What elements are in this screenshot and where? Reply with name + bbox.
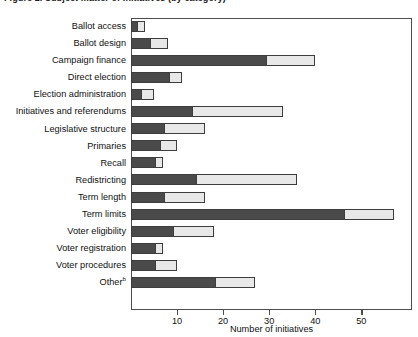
x-axis-tick <box>223 310 224 315</box>
bar-segment-light <box>137 22 144 31</box>
y-axis-category-labels: Ballot accessBallot designCampaign finan… <box>0 18 131 292</box>
bar-segment-light <box>169 73 181 82</box>
bar-segment-light <box>164 193 203 202</box>
y-axis-label: Ballot access <box>0 18 131 35</box>
bar-row <box>131 86 412 103</box>
bar-segment-dark <box>132 39 150 48</box>
stacked-bar <box>131 209 394 220</box>
bar-segment-light <box>266 56 315 65</box>
stacked-bar <box>131 277 255 288</box>
figure-title: Figure 2. Subject matter of initiatives … <box>4 0 226 3</box>
bar-segment-light <box>155 261 176 270</box>
stacked-bar <box>131 192 205 203</box>
stacked-bar <box>131 89 154 100</box>
stacked-bar <box>131 260 177 271</box>
y-axis-label: Voter procedures <box>0 257 131 274</box>
y-axis-label: Redistricting <box>0 172 131 189</box>
y-axis-label: Primaries <box>0 138 131 155</box>
bar-segment-light <box>164 124 203 133</box>
bar-segment-dark <box>132 193 164 202</box>
bar-segment-dark <box>132 56 266 65</box>
bar-row <box>131 155 412 172</box>
stacked-bar <box>131 106 283 117</box>
y-axis-label: Voter eligibility <box>0 223 131 240</box>
bar-segment-dark <box>132 261 155 270</box>
bar-row <box>131 52 412 69</box>
y-axis-label: Election administration <box>0 86 131 103</box>
bar-segment-dark <box>132 244 155 253</box>
y-axis-label: Voter registration <box>0 240 131 257</box>
stacked-bar <box>131 226 214 237</box>
bar-segment-dark <box>132 227 173 236</box>
bar-segment-dark <box>132 124 164 133</box>
bar-row <box>131 223 412 240</box>
bar-row <box>131 257 412 274</box>
y-axis-label: Recall <box>0 155 131 172</box>
bar-segment-light <box>160 141 176 150</box>
bar-segment-dark <box>132 107 192 116</box>
y-axis-label: Ballot design <box>0 35 131 52</box>
bar-segment-light <box>344 210 393 219</box>
bar-row <box>131 35 412 52</box>
bar-row <box>131 206 412 223</box>
y-axis-label: Campaign finance <box>0 52 131 69</box>
bar-segment-light <box>155 244 162 253</box>
stacked-bar <box>131 55 315 66</box>
x-axis-tick <box>361 310 362 315</box>
bar-row <box>131 172 412 189</box>
bar-segment-light <box>155 158 162 167</box>
y-axis-label: Term length <box>0 189 131 206</box>
figure-title-strip: Figure 2. Subject matter of initiatives … <box>0 0 418 8</box>
y-axis-label: Initiatives and referendums <box>0 103 131 120</box>
bar-segment-light <box>192 107 282 116</box>
footnote-marker: b <box>123 275 126 282</box>
bar-row <box>131 274 412 291</box>
bar-row <box>131 189 412 206</box>
bar-segment-dark <box>132 73 169 82</box>
bar-segment-dark <box>132 158 155 167</box>
bar-segment-dark <box>132 278 215 287</box>
x-axis-tick <box>177 310 178 315</box>
x-axis-title: Number of initiatives <box>131 324 412 334</box>
bar-segment-light <box>150 39 166 48</box>
bar-row <box>131 69 412 86</box>
bar-segment-dark <box>132 90 141 99</box>
x-axis-tick <box>269 310 270 315</box>
stacked-bar <box>131 243 163 254</box>
y-axis-label: Direct election <box>0 69 131 86</box>
bar-row <box>131 121 412 138</box>
bar-segment-dark <box>132 175 196 184</box>
bar-row <box>131 18 412 35</box>
stacked-bar <box>131 21 145 32</box>
bar-segment-light <box>141 90 153 99</box>
stacked-bar <box>131 174 297 185</box>
bar-row <box>131 103 412 120</box>
stacked-bar <box>131 157 163 168</box>
figure-container: Figure 2. Subject matter of initiatives … <box>0 0 418 337</box>
bars-layer <box>131 18 412 309</box>
bar-segment-light <box>173 227 212 236</box>
bar-segment-dark <box>132 141 160 150</box>
stacked-bar <box>131 72 182 83</box>
y-axis-label: Otherb <box>0 274 131 291</box>
stacked-bar <box>131 123 205 134</box>
y-axis-label: Legislative structure <box>0 121 131 138</box>
y-axis-label: Term limits <box>0 206 131 223</box>
stacked-bar <box>131 140 177 151</box>
bar-segment-light <box>215 278 254 287</box>
stacked-bar <box>131 38 168 49</box>
bar-row <box>131 240 412 257</box>
x-axis-tick <box>315 310 316 315</box>
bar-segment-light <box>196 175 295 184</box>
bar-row <box>131 138 412 155</box>
bar-segment-dark <box>132 210 344 219</box>
